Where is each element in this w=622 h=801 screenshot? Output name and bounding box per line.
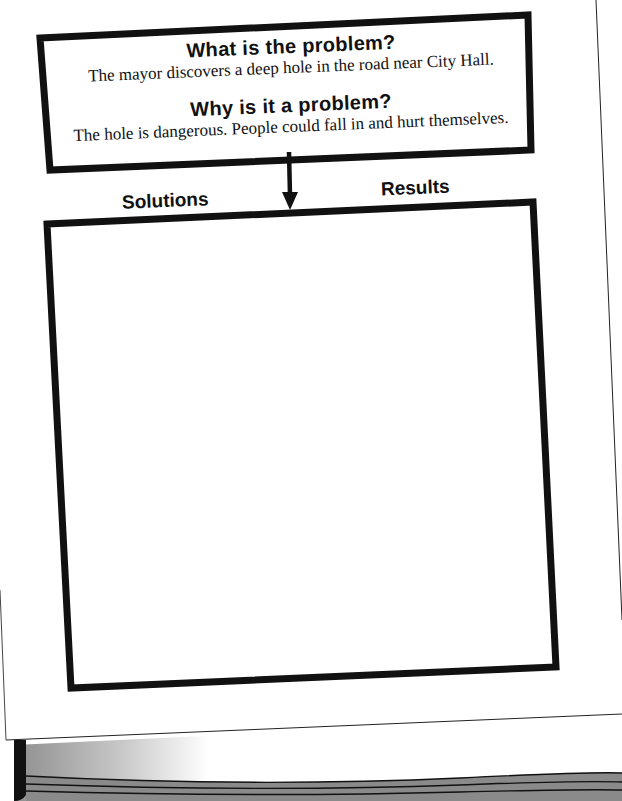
- solutions-results-response-area[interactable]: [60, 222, 550, 677]
- worksheet-page: What is the problem? The mayor discovers…: [0, 0, 622, 801]
- solutions-column-label: Solutions: [122, 188, 209, 214]
- results-column-label: Results: [381, 176, 451, 201]
